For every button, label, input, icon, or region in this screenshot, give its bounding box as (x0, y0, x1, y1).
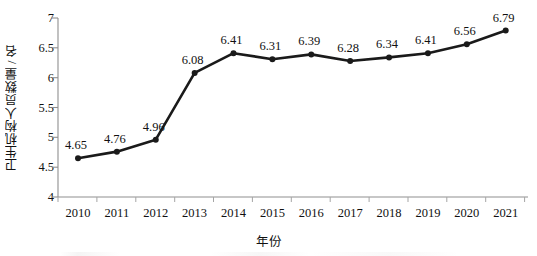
x-tick-label: 2021 (493, 206, 518, 221)
x-tick-label: 2018 (377, 206, 402, 221)
x-tick-label: 2014 (221, 206, 246, 221)
x-tick-label: 2015 (260, 206, 285, 221)
x-tick-label: 2013 (182, 206, 207, 221)
x-tick-label: 2010 (66, 206, 91, 221)
x-tick-label: 2011 (105, 206, 130, 221)
x-tick-label: 2017 (338, 206, 363, 221)
x-axis-title: 年份 (0, 231, 537, 250)
cropped-caption-sliver (60, 252, 480, 256)
x-tick-label: 2016 (299, 206, 324, 221)
x-tick-label: 2012 (143, 206, 168, 221)
x-axis-tick-labels: 2010 2011 2012 2013 2014 2015 2016 2017 … (0, 0, 537, 256)
line-chart-figure: 卫生机构人员数量 / 名 7 6.5 6 5.5 5 4.5 4 (0, 0, 537, 256)
x-tick-label: 2019 (415, 206, 440, 221)
x-tick-label: 2020 (454, 206, 479, 221)
